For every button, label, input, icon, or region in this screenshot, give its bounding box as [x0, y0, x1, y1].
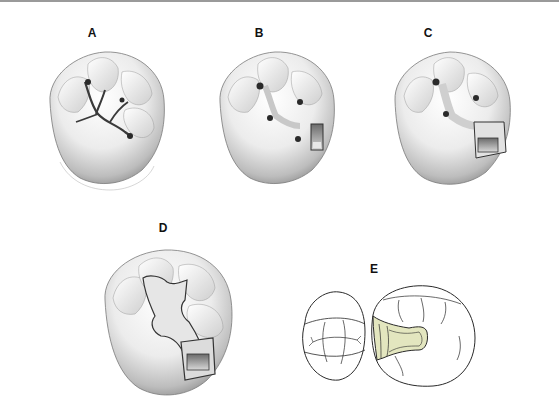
panel-label-c: C: [424, 26, 433, 40]
tooth-illustration-a: [30, 42, 180, 192]
panel-label-e: E: [370, 262, 378, 276]
panel-label-d: D: [159, 221, 168, 235]
panel-label-b: B: [255, 26, 264, 40]
panel-label-a: A: [88, 26, 97, 40]
top-rule: [0, 0, 559, 2]
tooth-illustration-d: [95, 240, 245, 410]
line-drawing-e: [295, 280, 490, 390]
tooth-illustration-c: [370, 42, 520, 192]
tooth-illustration-b: [200, 42, 350, 192]
